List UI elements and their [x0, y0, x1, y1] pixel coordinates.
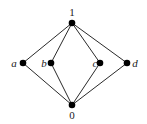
- edge-c-bottom: [72, 63, 100, 105]
- label-d: d: [132, 57, 138, 69]
- node-bottom: [69, 102, 76, 109]
- node-d: [124, 60, 131, 67]
- label-bottom: 0: [69, 109, 75, 121]
- hasse-diagram: 1 a b c d 0: [0, 0, 147, 124]
- node-a: [20, 60, 27, 67]
- node-b: [48, 60, 55, 67]
- label-b: b: [41, 57, 47, 69]
- edge-top-a: [23, 23, 72, 63]
- edge-a-bottom: [23, 63, 72, 105]
- edge-top-d: [72, 23, 127, 63]
- label-top: 1: [69, 6, 75, 18]
- edge-d-bottom: [72, 63, 127, 105]
- edges: [23, 23, 127, 105]
- edge-top-b: [51, 23, 72, 63]
- edge-b-bottom: [51, 63, 72, 105]
- node-top: [69, 20, 76, 27]
- node-c: [97, 60, 104, 67]
- label-a: a: [11, 57, 17, 69]
- nodes: [20, 20, 131, 109]
- label-c: c: [93, 57, 98, 69]
